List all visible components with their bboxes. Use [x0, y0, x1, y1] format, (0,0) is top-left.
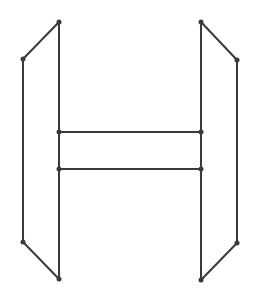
- node-L_bot_inner: [57, 277, 62, 282]
- node-R_mid_upper: [199, 130, 204, 135]
- nodes-group: [21, 20, 240, 283]
- node-R_bot_outer: [235, 241, 240, 246]
- node-L_mid_upper: [57, 130, 62, 135]
- node-R_top_inner: [199, 20, 204, 25]
- node-R_mid_lower: [199, 167, 204, 172]
- edge-L_bot_outer-L_bot_inner: [23, 242, 59, 279]
- edge-L_top_inner-L_top_outer: [23, 22, 59, 59]
- edges-group: [23, 22, 237, 280]
- h-shape-diagram: [0, 0, 259, 303]
- edge-R_top_inner-R_top_outer: [201, 22, 237, 60]
- edge-R_bot_outer-R_bot_inner: [201, 243, 237, 280]
- node-R_bot_inner: [199, 278, 204, 283]
- node-L_top_outer: [21, 57, 26, 62]
- node-L_bot_outer: [21, 240, 26, 245]
- node-R_top_outer: [235, 58, 240, 63]
- node-L_top_inner: [57, 20, 62, 25]
- node-L_mid_lower: [57, 167, 62, 172]
